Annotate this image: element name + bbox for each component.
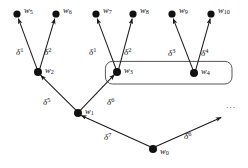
edge-label-w4-w9: δ3 (168, 48, 175, 58)
node-w3[interactable] (113, 68, 121, 76)
node-label-w6: w6 (63, 6, 72, 15)
node-w7[interactable] (92, 10, 99, 17)
node-label-w5: w5 (24, 6, 33, 15)
edge-w4-to-w9 (173, 19, 193, 71)
node-w9[interactable] (168, 10, 175, 17)
edge-w3-to-w7 (97, 19, 116, 70)
edge-w2-to-w5 (18, 19, 37, 70)
node-w6[interactable] (52, 10, 59, 17)
edge-label-w0-continuation: δ6 (184, 131, 191, 141)
node-label-w2: w2 (45, 66, 54, 75)
edge-label-w4-w10: δ4 (201, 48, 208, 58)
edge-w2-to-w6 (40, 19, 55, 70)
node-w8[interactable] (129, 10, 136, 17)
node-label-w0: w0 (160, 147, 169, 156)
node-w2[interactable] (34, 68, 42, 76)
node-label-w10: w10 (218, 6, 230, 15)
node-label-w8: w8 (140, 6, 149, 15)
node-w10[interactable] (207, 10, 214, 17)
node-w0[interactable] (149, 145, 157, 153)
node-label-w7: w7 (103, 6, 112, 15)
edge-label-w1-w2: δ5 (43, 97, 50, 107)
node-w5[interactable] (13, 10, 20, 17)
edge-w4-to-w10 (196, 19, 211, 71)
node-label-w9: w9 (179, 6, 188, 15)
edge-label-w2-w6: δ2 (44, 47, 51, 57)
edge-label-w0-w1: δ7 (104, 132, 111, 142)
diagram-graphics (0, 0, 248, 168)
node-label-w4: w4 (201, 67, 210, 76)
node-label-w1: w1 (85, 107, 94, 116)
edge-label-w3-w7: δ1 (89, 47, 96, 57)
edge-label-w2-w5: δ1 (16, 47, 23, 57)
continuation-ellipsis: ··· (226, 104, 236, 112)
edge-label-w3-w8: δ2 (124, 47, 131, 57)
edge-label-w1-w3: δ6 (107, 97, 114, 107)
edge-w0-to-w1 (81, 115, 150, 146)
node-w4[interactable] (190, 69, 198, 77)
diagram-canvas: w5 w6 w7 w8 w9 w10 w2 w3 w4 w1 w0 δ1 δ2 … (0, 0, 248, 168)
edge-group (18, 19, 221, 147)
node-w1[interactable] (74, 109, 82, 117)
node-label-w3: w3 (124, 66, 133, 75)
